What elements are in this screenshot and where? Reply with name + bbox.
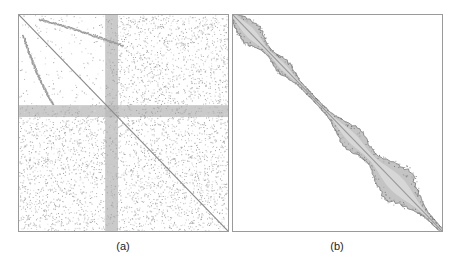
sparsity-plot-unordered: [18, 14, 229, 232]
caption-b: (b): [317, 240, 357, 252]
caption-a: (a): [103, 240, 143, 252]
sparsity-plot-reordered: [232, 14, 443, 232]
sparsity-pattern-b: [233, 15, 442, 231]
sparsity-pattern-a: [19, 15, 228, 231]
